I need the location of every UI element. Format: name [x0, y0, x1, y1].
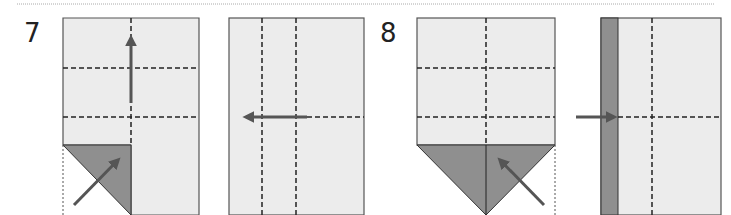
panel-step8-after: [576, 18, 721, 215]
panel-step7-before: [63, 18, 199, 215]
panel-step8-before: [417, 18, 555, 215]
origami-diagram: [0, 0, 731, 215]
panel-step7-after: [229, 18, 364, 215]
